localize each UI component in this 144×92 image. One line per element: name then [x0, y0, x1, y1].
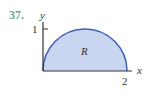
- x-axis-label: x: [136, 64, 142, 76]
- diagram: y x 1 2 R: [0, 0, 144, 92]
- y-axis-label: y: [39, 9, 45, 21]
- y-tick-label: 1: [32, 23, 38, 35]
- region-label: R: [80, 45, 88, 57]
- x-tick-label: 2: [122, 75, 128, 87]
